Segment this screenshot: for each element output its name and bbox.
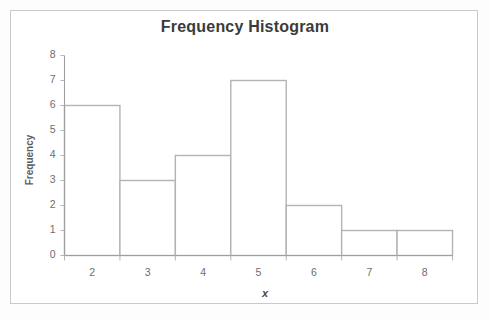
histogram-plot: 012345678 2345678 Frequency x: [0, 0, 490, 320]
x-axis-title: x: [261, 287, 269, 299]
y-tick-label: 0: [50, 248, 56, 260]
histogram-bar: [342, 231, 397, 256]
y-tick-label: 5: [50, 123, 56, 135]
histogram-bar: [120, 181, 175, 256]
x-tick-label: 6: [311, 266, 317, 278]
y-tick-label: 2: [50, 198, 56, 210]
x-tick-label: 3: [145, 266, 151, 278]
x-tick-labels-group: 2345678: [89, 266, 428, 278]
y-axis-title: Frequency: [24, 134, 35, 185]
x-tick-label: 8: [422, 266, 428, 278]
histogram-bar: [286, 206, 341, 256]
y-tick-label: 1: [50, 223, 56, 235]
x-tick-label: 7: [366, 266, 372, 278]
x-tick-label: 2: [89, 266, 95, 278]
x-tick-label: 5: [256, 266, 262, 278]
y-tick-label: 8: [50, 48, 56, 60]
figure-canvas: Frequency Histogram 012345678 2345678 Fr…: [0, 0, 490, 320]
y-tick-label: 6: [50, 98, 56, 110]
histogram-bar: [65, 106, 120, 256]
bars-group: [65, 81, 453, 256]
histogram-bar: [175, 156, 230, 256]
x-tick-label: 4: [200, 266, 206, 278]
y-tick-labels-group: 012345678: [50, 48, 56, 260]
histogram-bar: [397, 231, 452, 256]
y-tick-label: 3: [50, 173, 56, 185]
y-tick-label: 4: [50, 148, 56, 160]
y-tick-label: 7: [50, 73, 56, 85]
histogram-bar: [231, 81, 286, 256]
